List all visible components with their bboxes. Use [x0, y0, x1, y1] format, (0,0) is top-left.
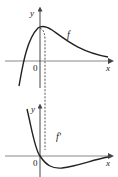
f-prime-curve	[27, 109, 108, 168]
bottom-origin-label: 0	[33, 158, 38, 168]
f-prime-label: f'	[56, 131, 62, 142]
top-origin-label: 0	[33, 63, 38, 73]
graphs-figure: y 0 x f y 0 x f'	[0, 0, 118, 177]
f-curve	[19, 26, 108, 86]
top-x-label: x	[105, 63, 110, 73]
bottom-graph: y 0 x f'	[5, 104, 111, 177]
bottom-y-label: y	[30, 104, 35, 114]
top-y-label: y	[29, 8, 34, 18]
f-label: f	[67, 29, 71, 40]
bottom-x-label: x	[105, 158, 110, 168]
top-graph: y 0 x f	[5, 8, 111, 88]
dashed-connector	[40, 28, 45, 150]
